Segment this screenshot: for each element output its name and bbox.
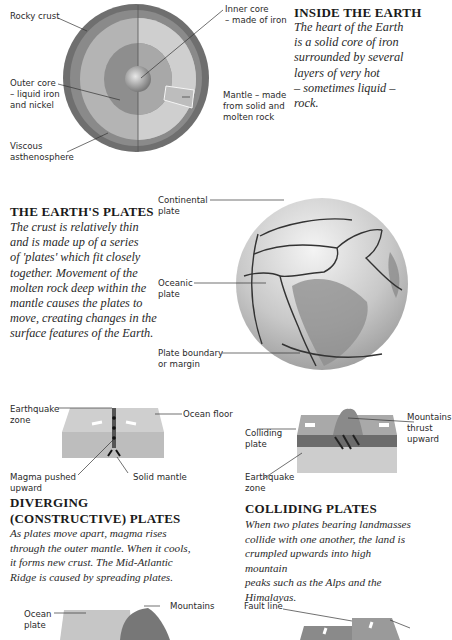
diverging-body: As plates move apart, magma rises throug… (10, 526, 190, 584)
label-earthquake-zone-colliding: Earthquake zone (245, 472, 294, 494)
label-continental-plate: Continental plate (158, 195, 208, 217)
label-earthquake-zone-diverging: Earthquake zone (10, 404, 59, 426)
diverging-heading-line2: (CONSTRUCTIVE) PLATES (10, 510, 180, 527)
leader-lines-colliding (200, 395, 416, 485)
label-fault-line: Fault line (244, 601, 283, 612)
colliding-heading: COLLIDING PLATES (245, 500, 377, 517)
diverging-heading-line1: DIVERGING (10, 494, 88, 511)
label-mantle: Mantle – made from solid and molten rock (223, 90, 286, 123)
label-rocky-crust: Rocky crust (10, 11, 60, 22)
leader-lines-plates (0, 180, 300, 380)
inside-earth-heading: INSIDE THE EARTH (294, 4, 422, 21)
label-plate-boundary: Plate boundary or margin (158, 348, 223, 370)
label-solid-mantle: Solid mantle (133, 472, 187, 483)
label-colliding-plate: Colliding plate (245, 428, 282, 450)
label-mountains: Mountains (170, 601, 215, 612)
label-ocean-plate: Ocean plate (24, 609, 52, 631)
label-inner-core: Inner core – made of iron (225, 4, 287, 26)
label-asthenosphere: Viscous asthenosphere (10, 141, 74, 163)
label-outer-core: Outer core – liquid iron and nickel (10, 78, 60, 111)
label-oceanic-plate: Oceanic plate (158, 278, 193, 300)
label-magma: Magma pushed upward (10, 472, 76, 494)
inside-earth-body: The heart of the Earth is a solid core o… (294, 20, 416, 111)
label-mountains-pushed: Mountains thrust upward (407, 412, 452, 445)
colliding-body: When two plates bearing landmasses colli… (245, 517, 416, 605)
